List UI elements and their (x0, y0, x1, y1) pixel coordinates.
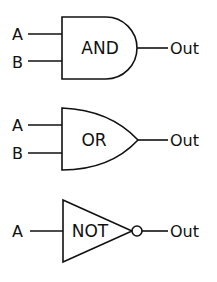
or-input-b-label: B (12, 144, 23, 163)
and-gate-label: AND (81, 38, 118, 58)
not-gate-label: NOT (72, 221, 109, 241)
logic-gates-diagram: A B AND Out A B OR Out A NOT Out (0, 0, 217, 282)
not-input-a-label: A (12, 222, 23, 241)
or-input-a-label: A (12, 116, 23, 135)
not-inversion-bubble-icon (132, 226, 142, 236)
and-gate: A B AND Out (12, 17, 199, 79)
or-output-label: Out (170, 131, 199, 150)
and-input-b-label: B (12, 53, 23, 72)
not-output-label: Out (170, 222, 199, 241)
and-input-a-label: A (12, 25, 23, 44)
not-gate: A NOT Out (12, 200, 199, 262)
and-output-label: Out (170, 39, 199, 58)
or-gate: A B OR Out (12, 108, 199, 170)
or-gate-label: OR (81, 130, 106, 150)
